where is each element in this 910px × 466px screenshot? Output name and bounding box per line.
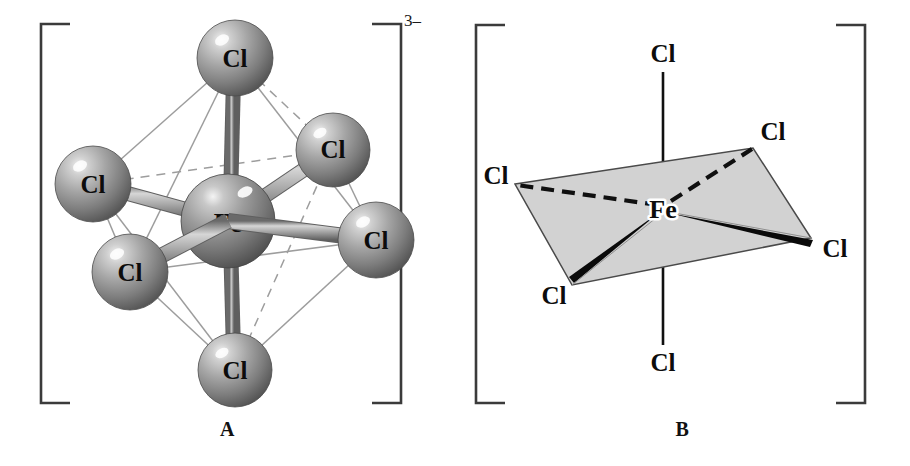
label-fe-center-b: Fe <box>649 195 676 224</box>
charge-label-a: 3– <box>404 12 421 29</box>
atom-label-cl: Cl <box>81 171 106 198</box>
atom-cl-bottom-axial: Cl <box>198 333 272 407</box>
atom-cl-top-axial: Cl <box>197 20 273 96</box>
panel-a-ball-and-stick: Cl Cl Cl Cl Fe <box>0 0 455 466</box>
charge-value: 3 <box>404 11 413 30</box>
panel-b-drawing: Cl Cl Cl Cl Cl Cl Fe <box>455 0 910 466</box>
charge-sign: – <box>413 11 422 30</box>
panel-b-line-drawing: Cl Cl Cl Cl Cl Cl Fe 3– B <box>455 0 910 466</box>
label-cl-left-rear: Cl <box>484 162 509 189</box>
figure-root: Cl Cl Cl Cl Fe <box>0 0 910 466</box>
label-cl-top-axial: Cl <box>651 40 676 67</box>
atom-label-cl: Cl <box>364 227 389 254</box>
panel-a-caption: A <box>0 418 455 441</box>
label-cl-left-front: Cl <box>542 282 567 309</box>
bracket-right-b <box>836 25 865 403</box>
atom-label-cl: Cl <box>321 136 346 163</box>
atom-label-cl: Cl <box>223 45 248 72</box>
atom-cl-right-front: Cl <box>338 202 414 278</box>
panel-a-drawing: Cl Cl Cl Cl Fe <box>0 0 455 466</box>
atom-cl-left-rear: Cl <box>55 146 131 222</box>
atom-label-cl: Cl <box>223 357 248 384</box>
panel-b-caption: B <box>455 418 910 441</box>
atom-cl-right-rear: Cl <box>296 113 370 187</box>
bracket-left-b <box>476 25 505 403</box>
bracket-left-a <box>41 24 70 403</box>
label-cl-bottom-axial: Cl <box>651 349 676 376</box>
label-cl-right-rear: Cl <box>761 118 786 145</box>
label-cl-right-front: Cl <box>823 235 848 262</box>
atom-label-cl: Cl <box>118 259 143 286</box>
atom-cl-left-front: Cl <box>92 234 168 310</box>
